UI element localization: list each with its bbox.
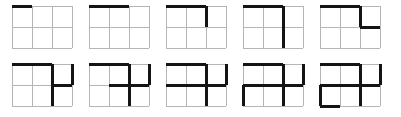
thick-path-layer xyxy=(89,64,149,106)
panel-4 xyxy=(231,0,308,58)
thick-segment-vertical xyxy=(282,6,285,48)
thin-gridline-horizontal xyxy=(320,48,380,49)
panel-8 xyxy=(154,58,231,116)
panel-10 xyxy=(308,58,385,116)
thick-path-layer xyxy=(89,6,149,48)
thick-path-layer xyxy=(320,64,380,106)
thick-path-layer xyxy=(320,6,380,48)
thick-segment-horizontal xyxy=(166,63,206,66)
thin-gridline-horizontal xyxy=(243,106,303,107)
thick-path-layer xyxy=(166,6,226,48)
thin-gridline-horizontal xyxy=(89,106,149,107)
panel-9 xyxy=(231,58,308,116)
thin-gridline-vertical xyxy=(380,6,381,48)
thick-segment-vertical xyxy=(359,6,362,27)
thick-path-layer xyxy=(166,64,226,106)
thick-segment-horizontal xyxy=(12,63,52,66)
thick-segment-horizontal xyxy=(320,5,360,8)
thick-segment-horizontal xyxy=(109,84,129,87)
grid-figure xyxy=(320,6,380,48)
thick-segment-vertical xyxy=(282,64,285,106)
thick-segment-horizontal xyxy=(360,26,380,29)
thick-segment-horizontal xyxy=(129,84,149,87)
grid-figure xyxy=(89,6,149,48)
thick-segment-horizontal xyxy=(89,5,129,8)
panel-5 xyxy=(308,0,385,58)
thin-gridline-horizontal xyxy=(243,48,303,49)
thick-segment-vertical xyxy=(128,64,131,106)
thick-path-layer xyxy=(243,6,303,48)
thin-gridline-vertical xyxy=(226,6,227,48)
grid-figure xyxy=(12,6,72,48)
thick-segment-vertical xyxy=(71,64,74,85)
figure-row-bottom xyxy=(0,58,401,116)
thick-segment-horizontal xyxy=(320,63,360,66)
thin-gridline-horizontal xyxy=(166,48,226,49)
thick-segment-horizontal xyxy=(243,5,283,8)
thick-segment-vertical xyxy=(302,64,305,85)
thick-segment-vertical xyxy=(205,6,208,27)
grid-figure xyxy=(243,64,303,106)
thin-gridline-horizontal xyxy=(12,48,72,49)
thick-segment-vertical xyxy=(51,64,54,106)
thick-segment-vertical xyxy=(359,64,362,106)
thick-segment-horizontal xyxy=(89,63,129,66)
thick-path-layer xyxy=(12,64,72,106)
thick-segment-vertical xyxy=(319,85,322,106)
panel-3 xyxy=(154,0,231,58)
thin-gridline-horizontal xyxy=(166,106,226,107)
thick-segment-horizontal xyxy=(52,84,72,87)
thin-gridline-vertical xyxy=(149,6,150,48)
thick-segment-vertical xyxy=(205,64,208,106)
grid-figure xyxy=(243,6,303,48)
thick-segment-horizontal xyxy=(320,105,340,108)
grid-figure xyxy=(89,64,149,106)
grid-figure xyxy=(166,6,226,48)
thick-segment-vertical xyxy=(379,64,382,85)
thick-segment-vertical xyxy=(242,85,245,106)
grid-figure xyxy=(320,64,380,106)
thin-gridline-vertical xyxy=(72,6,73,48)
thick-segment-vertical xyxy=(148,64,151,85)
panel-6 xyxy=(0,58,77,116)
thick-segment-horizontal xyxy=(166,5,206,8)
grid-figure xyxy=(166,64,226,106)
figure-row-top xyxy=(0,0,401,58)
thick-segment-horizontal xyxy=(12,5,32,8)
panel-1 xyxy=(0,0,77,58)
thin-gridline-vertical xyxy=(303,6,304,48)
thick-path-layer xyxy=(243,64,303,106)
thick-segment-horizontal xyxy=(243,84,303,87)
figure-sheet xyxy=(0,0,401,117)
thin-gridline-horizontal xyxy=(12,106,72,107)
thick-segment-vertical xyxy=(225,64,228,85)
panel-7 xyxy=(77,58,154,116)
panel-2 xyxy=(77,0,154,58)
grid-figure xyxy=(12,64,72,106)
thin-gridline-horizontal xyxy=(89,48,149,49)
thick-segment-horizontal xyxy=(166,84,226,87)
thick-segment-horizontal xyxy=(320,84,380,87)
thick-segment-horizontal xyxy=(243,63,283,66)
thick-path-layer xyxy=(12,6,72,48)
